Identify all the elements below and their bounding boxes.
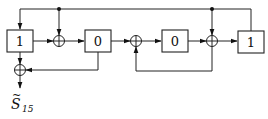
register-value: 1 [16, 34, 24, 49]
shift-register-diagram: 1 0 0 1 [0, 0, 268, 119]
xor-adder-output [15, 65, 26, 76]
register-value: 0 [171, 34, 179, 49]
register-box-4: 1 [238, 31, 264, 53]
xor-adder-1 [54, 36, 65, 47]
junction-dot [57, 7, 61, 11]
output-subscript: 15 [22, 104, 34, 114]
top-feedback-line [20, 7, 251, 35]
xor-adder-2 [131, 36, 142, 47]
register-box-3: 0 [162, 30, 188, 52]
junction-dot [210, 7, 214, 11]
output-label: S ~ 15 [11, 89, 34, 114]
xor-adder-3 [207, 36, 218, 47]
register-box-2: 0 [85, 30, 111, 52]
register-box-1: 1 [7, 30, 33, 52]
register-value: 1 [247, 35, 255, 50]
output-tilde: ~ [12, 89, 21, 102]
register-value: 0 [94, 34, 102, 49]
